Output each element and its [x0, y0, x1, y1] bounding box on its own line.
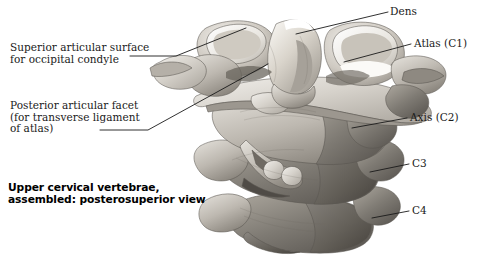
label-c3: C3: [412, 158, 427, 170]
label-c4: C4: [412, 205, 427, 217]
label-posterior-articular-facet: Posterior articular facet (for transvers…: [10, 100, 140, 135]
anatomical-figure: Superior articular surface for occipital…: [0, 0, 495, 257]
label-dens: Dens: [390, 6, 417, 18]
label-axis-c2: Axis (C2): [410, 112, 459, 124]
label-atlas-c1: Atlas (C1): [414, 38, 467, 50]
label-superior-articular-surface: Superior articular surface for occipital…: [10, 42, 149, 65]
figure-caption: Upper cervical vertebrae, assembled: pos…: [8, 182, 206, 207]
